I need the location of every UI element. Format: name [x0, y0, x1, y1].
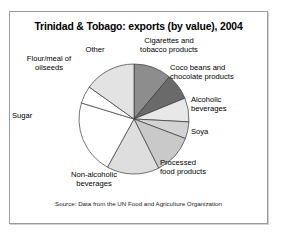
pie-label-other: Other [71, 45, 119, 54]
pie-label-processed-food: Processed food products [160, 158, 244, 176]
figure-frame: Trinidad & Tobago: exports (by value), 2… [9, 11, 268, 224]
source-note: Source: Data from the UN Food and Agricu… [10, 200, 267, 207]
pie-label-coco-beans: Coco beans and chocolate products [170, 63, 262, 81]
pie-label-alcoholic-beverages: Alcoholic beverages [191, 95, 259, 113]
pie-label-non-alcoholic: Non-alcoholic beverages [52, 170, 136, 188]
pie-label-soya: Soya [191, 127, 259, 136]
pie-label-flour-meal: Flour/meal of oilseeds [18, 54, 80, 72]
pie-chart: Other Cigarettes and tobacco products Co… [10, 12, 269, 225]
pie-label-cigarettes: Cigarettes and tobacco products [128, 36, 210, 54]
pie-label-sugar: Sugar [12, 111, 62, 120]
